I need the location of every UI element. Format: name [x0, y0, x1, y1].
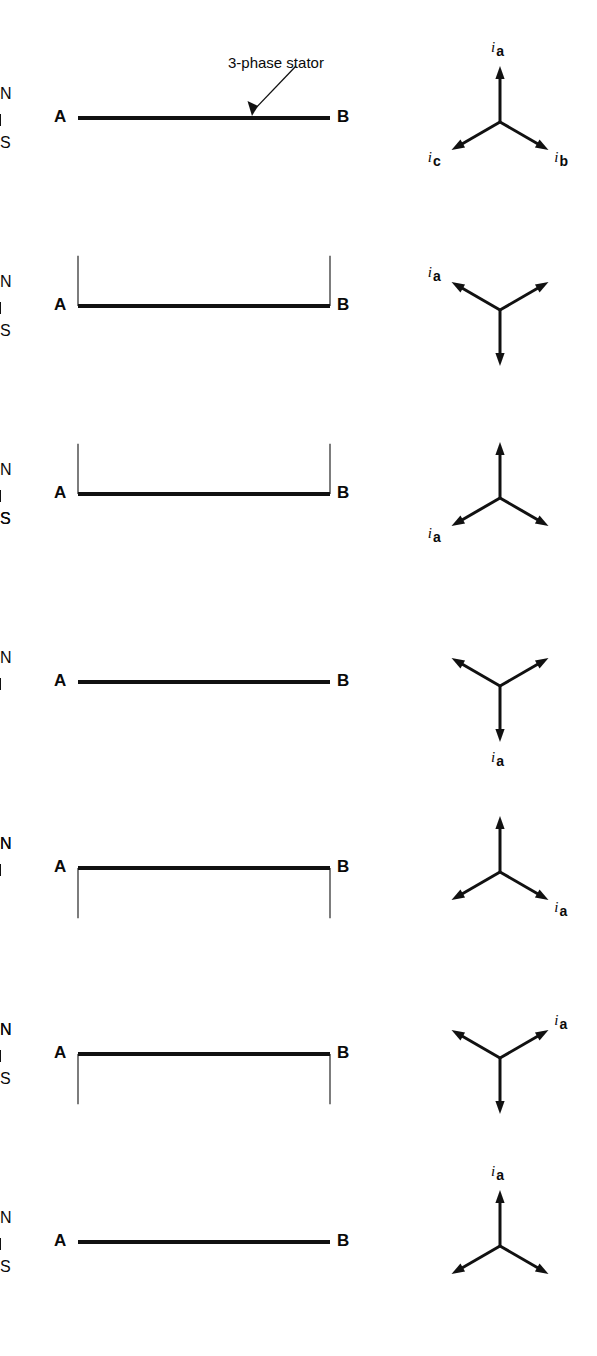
current-phasor-diagram: ia	[395, 1154, 597, 1344]
phasor-arrow	[452, 122, 501, 150]
north-pole-label: N	[0, 85, 12, 103]
phasor-label-a: ia	[491, 749, 503, 765]
arrowhead-icon	[535, 890, 549, 900]
north-pole-label: N	[0, 273, 12, 291]
phasor-subscript: a	[559, 903, 567, 919]
current-phasor-diagram: ia	[395, 966, 597, 1156]
phasor-arrow	[452, 1030, 501, 1058]
phasor-arrow	[495, 310, 504, 366]
south-pole-label: S	[0, 1070, 11, 1088]
axis-label-b: B	[337, 296, 349, 313]
arrowhead-icon	[452, 282, 466, 292]
phasor-arrow	[495, 1190, 504, 1246]
phasor-symbol: i	[554, 1012, 558, 1028]
phasor-arrow	[452, 658, 501, 686]
north-pole-label: N	[0, 835, 12, 853]
arrowhead-icon	[495, 816, 504, 829]
phasor-subscript: a	[559, 1016, 567, 1032]
north-pole-label: N	[0, 1021, 12, 1039]
axis-label-b: B	[337, 108, 349, 125]
flux-density-waveform: ABNS	[0, 218, 400, 408]
current-phasor-diagram: ia	[395, 218, 597, 408]
arrowhead-icon	[495, 729, 504, 742]
north-pole-label: N	[0, 461, 12, 479]
phasor-arrow	[500, 872, 549, 900]
stator-annotation-label: 3-phase stator	[228, 54, 324, 71]
axis-label-a: A	[54, 1232, 66, 1249]
phasor-subscript: a	[433, 529, 441, 545]
phasor-symbol: i	[428, 264, 432, 280]
phasor-symbol: i	[554, 899, 558, 915]
axis-label-a: A	[54, 484, 66, 501]
callout-leader-line	[252, 66, 296, 112]
phasor-subscript: b	[559, 153, 568, 169]
phasor-symbol: i	[491, 1163, 495, 1179]
waveform-row: ABNSia	[0, 218, 597, 408]
current-phasor-diagram: iaibic	[395, 30, 597, 220]
phasor-label-a: ia	[554, 1012, 566, 1028]
figure-canvas: ABNS3-phase statoriaibicABNSiaABNSSiaABN…	[0, 0, 597, 1356]
phasor-arrow	[495, 442, 504, 498]
flux-density-waveform: ABNNS	[0, 966, 400, 1156]
phasor-arrow	[452, 282, 501, 310]
phasor-subscript: c	[433, 153, 441, 169]
phasor-arrow	[452, 1246, 501, 1274]
arrowhead-icon	[535, 658, 549, 668]
phasor-arrow	[500, 658, 549, 686]
axis-label-a: A	[54, 1044, 66, 1061]
flux-density-waveform: ABNN	[0, 780, 400, 970]
phasor-label-a: ia	[491, 39, 503, 55]
phasor-arrow	[452, 872, 501, 900]
arrowhead-icon	[535, 140, 549, 150]
waveform-row: ABNSia	[0, 1154, 597, 1344]
arrowhead-icon	[452, 1030, 466, 1040]
arrowhead-icon	[495, 66, 504, 79]
north-pole-label: N	[0, 1209, 12, 1227]
arrowhead-icon	[495, 442, 504, 455]
south-pole-label: S	[0, 1258, 11, 1276]
phasor-label-c: ic	[428, 149, 440, 165]
waveform-row: ABNSSia	[0, 406, 597, 596]
waveform-row: ABNNia	[0, 780, 597, 970]
arrowhead-icon	[535, 1264, 549, 1274]
callout-arrowhead-icon	[248, 101, 259, 116]
flux-density-waveform: ABNSS	[0, 406, 400, 596]
phasor-subscript: a	[433, 268, 441, 284]
axis-label-b: B	[337, 1044, 349, 1061]
phasor-symbol: i	[428, 525, 432, 541]
arrowhead-icon	[495, 353, 504, 366]
axis-label-b: B	[337, 672, 349, 689]
axis-label-b: B	[337, 858, 349, 875]
arrowhead-icon	[452, 516, 466, 526]
waveform-row: ABNS3-phase statoriaibic	[0, 30, 597, 220]
phasor-arrow	[452, 498, 501, 526]
current-phasor-diagram: ia	[395, 594, 597, 784]
axis-label-a: A	[54, 672, 66, 689]
phasor-symbol: i	[554, 149, 558, 165]
axis-label-a: A	[54, 108, 66, 125]
axis-label-b: B	[337, 484, 349, 501]
phasor-subscript: a	[496, 43, 504, 59]
phasor-subscript: a	[496, 1167, 504, 1183]
phasor-subscript: a	[496, 753, 504, 769]
phasor-arrow	[495, 686, 504, 742]
arrowhead-icon	[452, 1264, 466, 1274]
phasor-symbol: i	[491, 749, 495, 765]
phasor-arrow	[500, 1030, 549, 1058]
waveform-row: ABNNSia	[0, 966, 597, 1156]
waveform-row: ABNia	[0, 594, 597, 784]
flux-density-waveform: ABNS	[0, 1154, 400, 1344]
arrowhead-icon	[495, 1190, 504, 1203]
north-pole-label: N	[0, 649, 12, 667]
arrowhead-icon	[452, 890, 466, 900]
phasor-arrow	[500, 282, 549, 310]
current-phasor-diagram: ia	[395, 780, 597, 970]
phasor-symbol: i	[428, 149, 432, 165]
current-phasor-diagram: ia	[395, 406, 597, 596]
arrowhead-icon	[535, 282, 549, 292]
phasor-symbol: i	[491, 39, 495, 55]
phasor-label-a: ia	[554, 899, 566, 915]
arrowhead-icon	[535, 1030, 549, 1040]
phasor-label-a: ia	[428, 264, 440, 280]
phasor-label-a: ia	[491, 1163, 503, 1179]
